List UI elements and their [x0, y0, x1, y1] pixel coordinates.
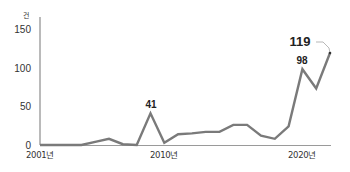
y-axis-unit: 건	[23, 11, 29, 20]
leader-line-119	[316, 42, 331, 54]
data-label-2009: 41	[145, 99, 157, 110]
data-label-2022: 119	[290, 34, 311, 49]
y-tick-label: 50	[20, 101, 32, 112]
data-line	[40, 53, 330, 145]
data-label-2020: 98	[296, 55, 308, 66]
x-tick-label: 2001년	[26, 150, 54, 160]
y-tick-label: 150	[14, 24, 31, 35]
x-tick-label: 2020년	[288, 150, 316, 160]
y-tick-label: 100	[14, 63, 31, 74]
x-axis: 2001년 2010년 2020년	[26, 146, 331, 161]
y-axis: 건 150 100 50 0	[14, 11, 40, 151]
line-chart: 건 150 100 50 0 2001년 2010년 2020년 41 98 1…	[0, 0, 350, 172]
x-tick-label: 2010년	[150, 150, 178, 160]
endpoint-marker	[329, 52, 332, 55]
